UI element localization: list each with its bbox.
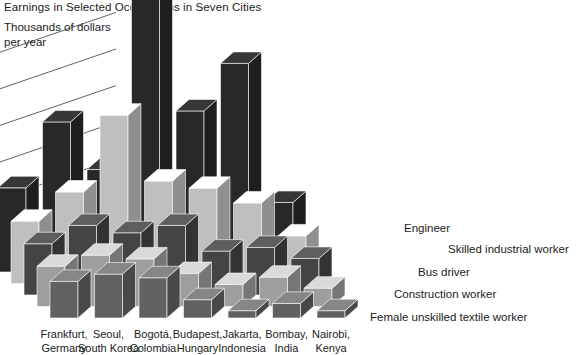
legend-item-label: Female unskilled textile worker	[370, 311, 527, 323]
bar	[139, 266, 180, 318]
bar	[50, 270, 91, 318]
x-axis-label: Nairobi,Kenya	[293, 327, 369, 355]
legend-item-label: Engineer	[404, 222, 450, 234]
bar-chart: Earnings in Selected Occupations in Seve…	[0, 0, 580, 355]
chart-canvas	[0, 0, 580, 355]
legend-item-label: Skilled industrial worker	[448, 243, 569, 255]
x-axis-label-line: Kenya	[293, 341, 369, 355]
legend-item-label: Construction worker	[394, 288, 496, 300]
x-axis-label-line: Nairobi,	[293, 327, 369, 341]
bar	[95, 263, 136, 318]
legend-item-label: Bus driver	[418, 266, 470, 278]
bars	[0, 0, 358, 318]
